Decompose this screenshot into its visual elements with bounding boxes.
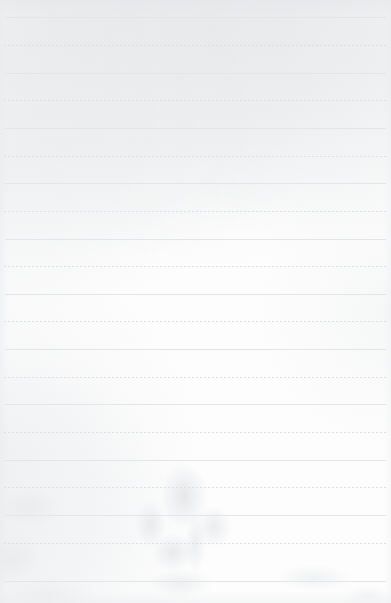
rule-line-21-solid	[5, 581, 386, 582]
lined-paper-page	[0, 0, 391, 603]
writing-area[interactable]	[5, 17, 386, 581]
